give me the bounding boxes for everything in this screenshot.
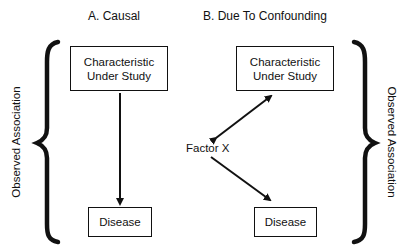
panel-a-title: A. Causal [88, 9, 140, 23]
left-brace [37, 42, 58, 242]
right-brace [354, 42, 375, 242]
confounding-characteristic-box: Characteristic Under Study [236, 46, 334, 91]
factor-to-disease-arrow [211, 157, 270, 200]
confounding-disease-box: Disease [254, 207, 317, 237]
causal-disease-box: Disease [88, 207, 152, 237]
left-observed-association-label: Observed Association [10, 82, 22, 202]
causal-characteristic-line1: Characteristic [84, 55, 154, 69]
factor-to-characteristic-arrow [216, 96, 271, 138]
confounding-disease-label: Disease [265, 215, 307, 229]
diagram-graphics [0, 0, 407, 251]
causal-characteristic-box: Characteristic Under Study [70, 46, 168, 91]
right-observed-association-label: Observed Association [386, 82, 398, 202]
causal-disease-label: Disease [99, 215, 141, 229]
factor-x-label: Factor X [186, 142, 229, 154]
confounding-characteristic-line2: Under Study [250, 69, 320, 83]
causal-characteristic-line2: Under Study [84, 69, 154, 83]
panel-b-title: B. Due To Confounding [203, 9, 327, 23]
confounding-characteristic-line1: Characteristic [250, 55, 320, 69]
